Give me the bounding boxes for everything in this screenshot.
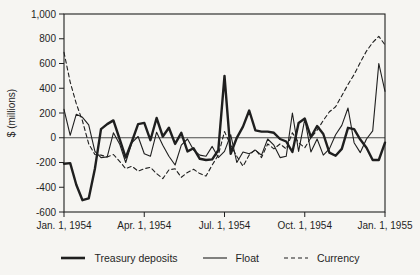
treasury-deposits-line-icon: [60, 253, 86, 263]
legend-label-float: Float: [236, 252, 259, 264]
y-tick-label: 0: [50, 132, 56, 143]
y-tick-label: 400: [39, 83, 56, 94]
legend-item-float: Float: [202, 252, 259, 264]
float-line-icon: [202, 253, 228, 263]
x-tick-label: Oct. 1, 1954: [278, 220, 333, 231]
legend-item-treasury-deposits: Treasury deposits: [60, 252, 177, 264]
y-tick-label: 1,000: [31, 9, 56, 20]
x-tick-label: Jan. 1, 1954: [36, 220, 91, 231]
legend: Treasury deposits Float Currency: [0, 246, 420, 270]
x-tick-label: Jul. 1, 1954: [199, 220, 251, 231]
y-axis-title: $ (millions): [6, 89, 17, 137]
y-tick-label: 600: [39, 58, 56, 69]
chart: $ (millions) 1,0008006004002000-200-400-…: [0, 0, 420, 246]
y-tick-label: 200: [39, 108, 56, 119]
plot-border: [64, 14, 385, 212]
legend-item-currency: Currency: [283, 252, 360, 264]
y-tick-label: -400: [36, 182, 56, 193]
currency-line-icon: [283, 253, 309, 263]
y-tick-label: 800: [39, 33, 56, 44]
x-tick-label: Apr. 1, 1954: [117, 220, 171, 231]
legend-label-treasury-deposits: Treasury deposits: [94, 252, 177, 264]
series-line-currency: [64, 36, 385, 178]
figure: $ (millions) 1,0008006004002000-200-400-…: [0, 0, 420, 275]
legend-label-currency: Currency: [317, 252, 360, 264]
x-tick-label: Jan. 1, 1955: [357, 220, 412, 231]
y-tick-label: -600: [36, 207, 56, 218]
y-tick-label: -200: [36, 157, 56, 168]
